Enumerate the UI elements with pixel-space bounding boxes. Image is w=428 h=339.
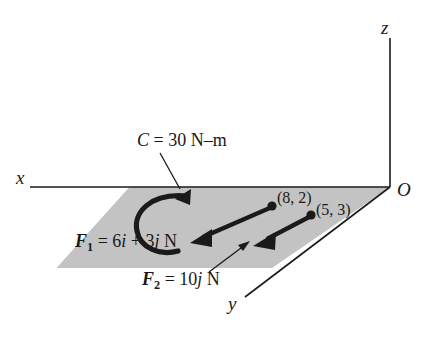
force2-eq: = 10 [160, 269, 197, 289]
origin-label: O [397, 180, 411, 199]
force1-plus: + 3 [126, 231, 154, 251]
force1-units: N [159, 231, 177, 251]
point-marker-8-2 [267, 201, 276, 210]
force2-symbol: F [142, 269, 154, 289]
point-label-5-3: (5, 3) [316, 202, 351, 218]
y-axis-label: y [228, 294, 236, 313]
force2-units: N [202, 269, 220, 289]
point-label-8-2: (8, 2) [277, 190, 312, 206]
figure-canvas: x y z O C = 30 N–m F1 = 6i + 3j N F2 = 1… [0, 0, 428, 339]
couple-leader-line [160, 153, 180, 189]
couple-value: = 30 N–m [149, 130, 227, 150]
point-marker-5-3 [306, 210, 315, 219]
couple-label: C = 30 N–m [137, 131, 227, 149]
couple-symbol: C [137, 130, 149, 150]
force1-label: F1 = 6i + 3j N [75, 232, 177, 253]
z-axis-label: z [381, 18, 388, 37]
force1-eq: = 6 [93, 231, 121, 251]
x-axis-label: x [16, 168, 24, 187]
force1-symbol: F [75, 231, 87, 251]
force2-label: F2 = 10j N [142, 270, 220, 291]
